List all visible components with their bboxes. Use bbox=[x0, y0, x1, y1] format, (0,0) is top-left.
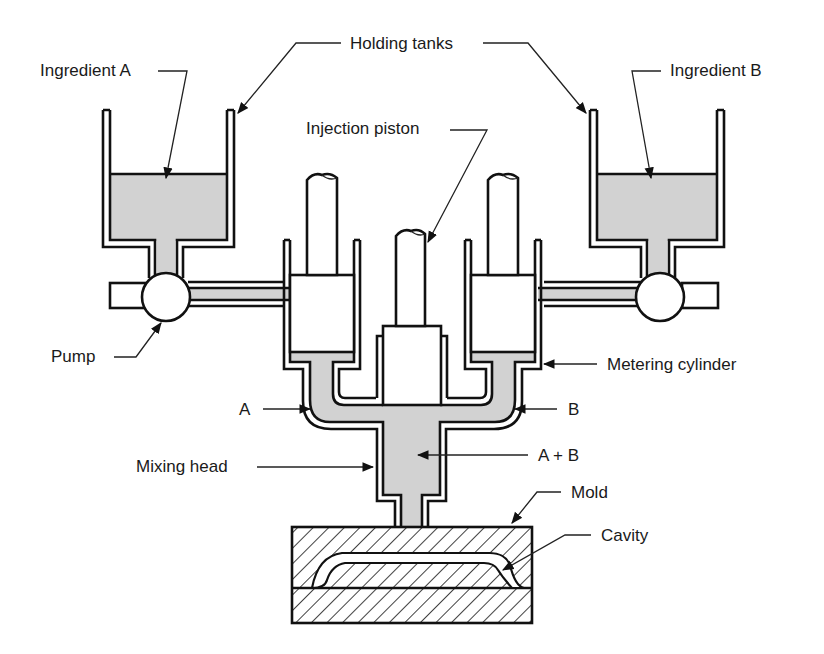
injection-piston bbox=[377, 230, 447, 405]
pump-b bbox=[636, 273, 718, 321]
label-a: A bbox=[239, 400, 310, 419]
svg-text:Pump: Pump bbox=[51, 347, 95, 366]
pump-a bbox=[110, 273, 190, 321]
label-holding-tanks: Holding tanks bbox=[238, 34, 586, 113]
svg-text:A: A bbox=[239, 400, 251, 419]
svg-text:Mixing head: Mixing head bbox=[136, 457, 228, 476]
label-ingredient-b: Ingredient B bbox=[632, 61, 762, 178]
svg-text:Ingredient B: Ingredient B bbox=[670, 61, 762, 80]
svg-text:Holding tanks: Holding tanks bbox=[350, 34, 453, 53]
label-metering-cylinder: Metering cylinder bbox=[544, 355, 737, 374]
feed-pipe-a bbox=[188, 282, 290, 306]
label-b: B bbox=[515, 400, 579, 419]
feed-pipe-b bbox=[538, 282, 642, 306]
label-mold: Mold bbox=[512, 483, 608, 523]
svg-text:Ingredient A: Ingredient A bbox=[40, 61, 131, 80]
svg-text:Metering cylinder: Metering cylinder bbox=[607, 355, 737, 374]
rim-process-diagram: Holding tanks Ingredient A Ingredient B … bbox=[0, 0, 824, 654]
mold bbox=[292, 527, 532, 623]
label-a-plus-b: A + B bbox=[418, 446, 579, 465]
svg-text:A + B: A + B bbox=[538, 446, 579, 465]
holding-tank-b bbox=[590, 110, 724, 278]
svg-text:Cavity: Cavity bbox=[601, 526, 649, 545]
label-pump: Pump bbox=[51, 323, 161, 366]
svg-text:Mold: Mold bbox=[571, 483, 608, 502]
svg-text:B: B bbox=[568, 400, 579, 419]
label-mixing-head: Mixing head bbox=[136, 457, 373, 476]
svg-text:Injection piston: Injection piston bbox=[306, 119, 419, 138]
holding-tank-a bbox=[103, 110, 234, 278]
label-ingredient-a: Ingredient A bbox=[40, 61, 187, 178]
